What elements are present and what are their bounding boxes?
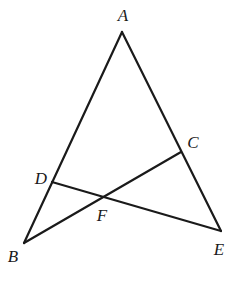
point-label-e: E: [214, 241, 224, 258]
point-label-a: A: [118, 7, 128, 24]
point-label-b: B: [8, 248, 18, 265]
geometry-figure: A B C D E F: [0, 0, 247, 286]
segment-ae: [122, 32, 221, 231]
point-label-c: C: [187, 134, 198, 151]
segment-ab: [24, 32, 122, 243]
segment-de: [52, 182, 221, 231]
figure-lines: [0, 0, 247, 286]
point-label-f: F: [97, 207, 107, 224]
point-label-d: D: [35, 170, 47, 187]
